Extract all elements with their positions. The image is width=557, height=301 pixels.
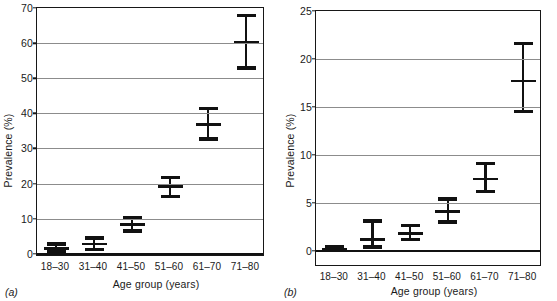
error-bar xyxy=(395,11,425,264)
error-bar xyxy=(231,8,261,254)
chart-panel-b: Prevalence (%) 0510152025 18–3031–4041–5… xyxy=(278,0,556,301)
error-bar-mean-marker xyxy=(44,247,69,250)
y-tick-mark xyxy=(33,183,37,184)
error-bar-upper-cap xyxy=(363,219,382,222)
error-bar-upper-cap xyxy=(514,42,533,45)
error-bar xyxy=(471,11,501,264)
plot-area-b: 0510152025 xyxy=(315,10,541,266)
x-tick-label: 31–40 xyxy=(79,261,107,272)
error-bar xyxy=(433,11,463,264)
x-axis-label-b: Age group (years) xyxy=(278,285,556,297)
gridline xyxy=(316,155,540,156)
error-bar-mean-marker xyxy=(473,178,498,181)
error-bar-upper-cap xyxy=(85,236,104,239)
error-bar-lower-cap xyxy=(514,110,533,113)
error-bar-mean-marker xyxy=(398,232,423,235)
error-bar xyxy=(193,8,223,254)
error-bar-stem xyxy=(371,221,374,247)
error-bar-lower-cap xyxy=(401,238,420,241)
y-tick-mark xyxy=(33,218,37,219)
x-tick-label: 51–60 xyxy=(433,271,461,282)
error-bar-mean-marker xyxy=(196,123,221,126)
gridline xyxy=(316,203,540,204)
error-bar-lower-cap xyxy=(438,220,457,223)
error-bar-series-b xyxy=(316,11,540,265)
gridline xyxy=(316,59,540,60)
zero-baseline xyxy=(37,253,263,255)
error-bar xyxy=(358,11,388,264)
y-axis-label-b: Prevalence (%) xyxy=(282,0,298,301)
y-tick-mark xyxy=(312,10,316,11)
y-tick-mark xyxy=(312,202,316,203)
error-bar-lower-cap xyxy=(199,137,218,140)
y-tick-mark xyxy=(33,78,37,79)
x-tick-label: 71–80 xyxy=(508,271,536,282)
error-bar xyxy=(320,11,350,264)
x-axis-label-a: Age group (years) xyxy=(0,278,278,290)
error-bar xyxy=(508,11,538,264)
error-bar-mean-marker xyxy=(82,243,107,246)
error-bar-mean-marker xyxy=(158,185,183,188)
y-tick-mark xyxy=(33,148,37,149)
error-bar-upper-cap xyxy=(476,162,495,165)
x-tick-label: 31–40 xyxy=(357,271,385,282)
error-bar-lower-cap xyxy=(85,248,104,251)
gridline xyxy=(37,113,263,114)
error-bar-upper-cap xyxy=(401,224,420,227)
gridline xyxy=(37,148,263,149)
error-bar-upper-cap xyxy=(47,242,66,245)
error-bar-lower-cap xyxy=(363,245,382,248)
error-bar xyxy=(79,8,109,254)
x-tick-label: 61–70 xyxy=(193,261,221,272)
y-tick-mark xyxy=(312,154,316,155)
y-tick-mark xyxy=(312,58,316,59)
zero-baseline xyxy=(316,250,540,252)
y-tick-mark xyxy=(33,113,37,114)
y-tick-mark xyxy=(33,42,37,43)
error-bar-upper-cap xyxy=(161,176,180,179)
x-tick-label: 18–30 xyxy=(41,261,69,272)
gridline xyxy=(37,78,263,79)
error-bar-mean-marker xyxy=(360,238,385,241)
figure: Prevalence (%) 010203040506070 18–3031–4… xyxy=(0,0,557,301)
gridline xyxy=(37,219,263,220)
error-bar-upper-cap xyxy=(199,107,218,110)
panel-tag-b: (b) xyxy=(284,286,297,298)
x-tick-label: 61–70 xyxy=(470,271,498,282)
x-tick-label: 41–50 xyxy=(395,271,423,282)
x-tick-label: 41–50 xyxy=(117,261,145,272)
error-bar-mean-marker xyxy=(120,223,145,226)
error-bar xyxy=(117,8,147,254)
x-tick-label: 18–30 xyxy=(320,271,348,282)
error-bar-upper-cap xyxy=(237,14,256,17)
error-bar-lower-cap xyxy=(161,195,180,198)
x-axis-ticks-a: 18–3031–4041–5051–6061–7071–80 xyxy=(0,261,278,275)
error-bar-stem xyxy=(522,44,525,112)
y-tick-mark xyxy=(33,253,37,254)
plot-area-a: 010203040506070 xyxy=(36,7,264,256)
x-axis-ticks-b: 18–3031–4041–5051–6061–7071–80 xyxy=(278,271,556,285)
error-bar-lower-cap xyxy=(237,66,256,69)
y-tick-mark xyxy=(312,106,316,107)
error-bar-lower-cap xyxy=(476,190,495,193)
chart-panel-a: Prevalence (%) 010203040506070 18–3031–4… xyxy=(0,0,278,301)
y-tick-mark xyxy=(33,7,37,8)
error-bar-mean-marker xyxy=(511,80,536,83)
y-tick-mark xyxy=(312,250,316,251)
gridline xyxy=(37,184,263,185)
error-bar xyxy=(41,8,71,254)
panel-tag-a: (a) xyxy=(5,286,18,298)
x-tick-label: 71–80 xyxy=(231,261,259,272)
error-bar-mean-marker xyxy=(435,210,460,213)
gridline xyxy=(316,107,540,108)
error-bar xyxy=(155,8,185,254)
y-axis-label-a: Prevalence (%) xyxy=(0,0,16,301)
gridline xyxy=(37,43,263,44)
error-bar-upper-cap xyxy=(438,197,457,200)
x-tick-label: 51–60 xyxy=(155,261,183,272)
error-bar-lower-cap xyxy=(123,229,142,232)
